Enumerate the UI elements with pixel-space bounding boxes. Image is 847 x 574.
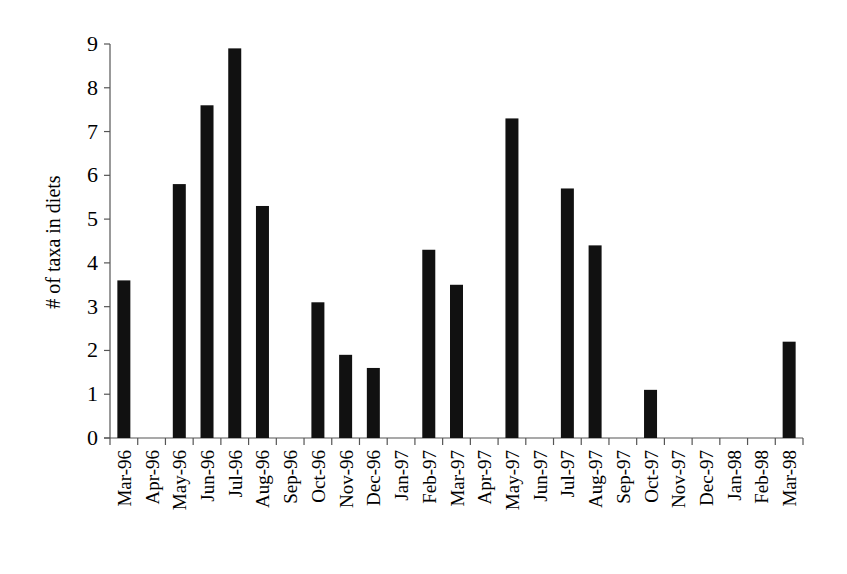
x-tick-label: May-97 — [502, 450, 523, 510]
bar-jul-97 — [561, 188, 574, 438]
x-tick-label: Aug-96 — [252, 450, 273, 508]
x-tick-label: Nov-97 — [668, 450, 689, 508]
y-tick-label: 1 — [87, 381, 98, 406]
x-tick-label: Feb-97 — [419, 450, 440, 504]
x-tick-label: Feb-98 — [751, 450, 772, 504]
bar-aug-96 — [256, 206, 269, 438]
x-tick-label: Jun-97 — [530, 450, 551, 502]
x-tick-label: Jul-97 — [557, 450, 578, 498]
bars — [117, 48, 795, 438]
bar-chart: 0123456789 Mar-96Apr-96May-96Jun-96Jul-9… — [0, 0, 847, 574]
x-tick-label: Mar-98 — [779, 450, 800, 507]
y-tick-label: 9 — [87, 31, 98, 56]
x-tick-label: Apr-97 — [474, 450, 495, 505]
bar-nov-96 — [339, 355, 352, 438]
x-tick-label: Mar-97 — [447, 450, 468, 507]
y-tick-label: 4 — [87, 250, 98, 275]
x-tick-label: Dec-97 — [696, 450, 717, 506]
bar-mar-98 — [783, 342, 796, 438]
y-axis-label: # of taxa in diets — [42, 175, 64, 309]
x-tick-label: Jun-96 — [197, 450, 218, 502]
y-tick-label: 0 — [87, 425, 98, 450]
y-tick-label: 3 — [87, 294, 98, 319]
x-tick-label: Aug-97 — [585, 450, 606, 508]
y-tick-label: 6 — [87, 162, 98, 187]
x-axis: Mar-96Apr-96May-96Jun-96Jul-96Aug-96Sep-… — [104, 438, 803, 510]
bar-mar-97 — [450, 285, 463, 438]
bar-jul-96 — [228, 48, 241, 438]
bar-aug-97 — [589, 245, 602, 438]
x-tick-label: May-96 — [169, 450, 190, 510]
x-tick-label: Oct-96 — [308, 450, 329, 503]
y-axis: 0123456789 — [87, 31, 110, 450]
y-tick-label: 2 — [87, 337, 98, 362]
x-tick-label: Jan-98 — [724, 450, 745, 501]
x-tick-label: Nov-96 — [336, 450, 357, 508]
x-tick-label: Jan-97 — [391, 450, 412, 501]
bar-may-97 — [505, 118, 518, 438]
x-tick-label: Oct-97 — [641, 450, 662, 503]
x-tick-label: Mar-96 — [114, 450, 135, 507]
y-tick-label: 5 — [87, 206, 98, 231]
bar-may-96 — [173, 184, 186, 438]
x-tick-label: Dec-96 — [363, 450, 384, 506]
bar-oct-97 — [644, 390, 657, 438]
bar-oct-96 — [311, 302, 324, 438]
bar-dec-96 — [367, 368, 380, 438]
x-tick-label: Jul-96 — [225, 450, 246, 498]
x-tick-label: Sep-96 — [280, 450, 301, 504]
bar-jun-96 — [201, 105, 214, 438]
bar-mar-96 — [117, 280, 130, 438]
y-tick-label: 7 — [87, 119, 98, 144]
x-tick-label: Sep-97 — [613, 450, 634, 504]
y-tick-label: 8 — [87, 75, 98, 100]
x-tick-label: Apr-96 — [142, 450, 163, 505]
bar-feb-97 — [422, 250, 435, 438]
